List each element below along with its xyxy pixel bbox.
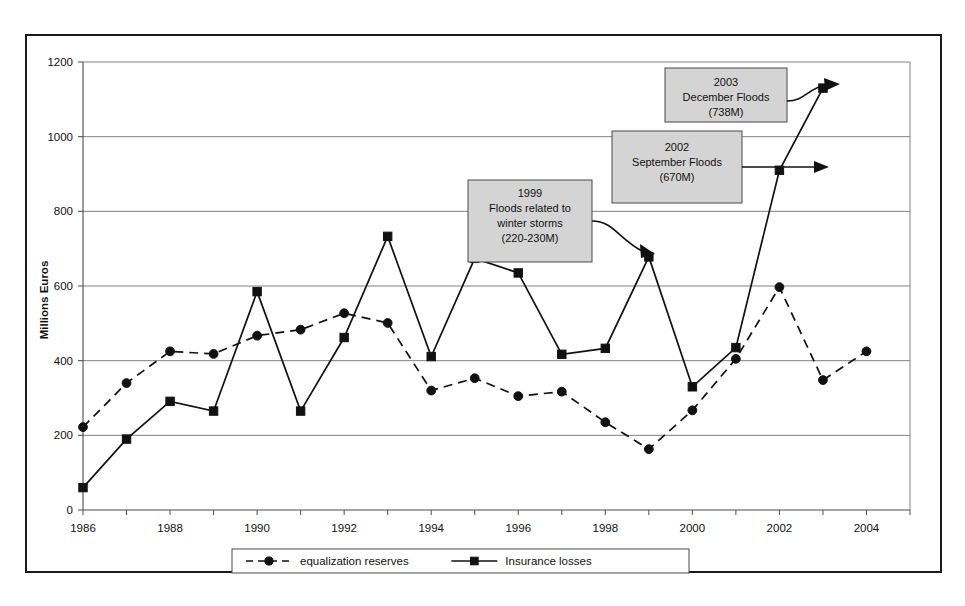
callout-line: September Floods: [632, 156, 722, 168]
x-tick-label: 2004: [854, 522, 880, 534]
data-point-marker: [601, 344, 609, 352]
data-point-marker: [558, 350, 566, 358]
callout-line: (670M): [660, 171, 695, 183]
data-point-marker: [775, 283, 784, 292]
data-point-marker: [644, 445, 653, 454]
x-tick-label: 2000: [680, 522, 706, 534]
annotation-2002-september-floods: 2002September Floods(670M): [612, 131, 829, 203]
y-axis-title: Millions Euros: [38, 261, 50, 340]
data-point-marker: [688, 383, 696, 391]
callout-line: 1999: [518, 187, 542, 199]
x-tick-label: 1994: [418, 522, 444, 534]
chart-legend[interactable]: equalization reservesInsurance losses: [232, 549, 689, 573]
line-chart: 020040060080010001200 198619881990199219…: [0, 0, 965, 606]
data-point-marker: [601, 418, 610, 427]
callout-line: winter storms: [496, 217, 563, 229]
data-point-marker: [296, 407, 304, 415]
y-tick-label: 600: [54, 280, 73, 292]
annotations-layer: 1999Floods related towinter storms(220-2…: [468, 68, 840, 262]
legend-label: Insurance losses: [505, 555, 592, 567]
x-tick-label: 1992: [331, 522, 357, 534]
data-point-marker: [79, 423, 88, 432]
data-point-marker: [732, 343, 740, 351]
x-tick-label: 1988: [157, 522, 183, 534]
data-point-marker: [340, 309, 349, 318]
data-point-marker: [514, 392, 523, 401]
callout-line: Floods related to: [489, 202, 571, 214]
y-tick-label: 1200: [47, 56, 73, 68]
data-point-marker: [122, 379, 131, 388]
callout-line: (220-230M): [502, 232, 559, 244]
x-tick-label: 2002: [767, 522, 793, 534]
callout-arrowhead-icon: [814, 161, 829, 173]
y-tick-label: 0: [67, 504, 73, 516]
callout-line: December Floods: [683, 91, 770, 103]
legend-sample-marker: [471, 557, 479, 565]
callout-arrowhead-icon: [824, 78, 840, 91]
data-point-marker: [122, 435, 130, 443]
data-point-marker: [296, 325, 305, 334]
data-point-marker: [557, 387, 566, 396]
annotation-2003-december-floods: 2003December Floods(738M): [665, 68, 840, 122]
data-point-marker: [209, 407, 217, 415]
y-axis-tick-labels: 020040060080010001200: [47, 56, 73, 516]
data-point-marker: [166, 347, 175, 356]
x-tick-label: 1998: [593, 522, 619, 534]
data-point-marker: [383, 232, 391, 240]
data-point-marker: [427, 352, 435, 360]
callout-line: 2003: [714, 76, 738, 88]
data-point-marker: [688, 406, 697, 415]
data-point-marker: [470, 374, 479, 383]
data-series-layer: [79, 84, 871, 492]
data-point-marker: [427, 386, 436, 395]
y-axis-ticks: [78, 62, 83, 510]
y-tick-label: 400: [54, 355, 73, 367]
x-axis-ticks: [83, 510, 910, 515]
y-tick-label: 200: [54, 429, 73, 441]
data-point-marker: [166, 397, 174, 405]
data-point-marker: [383, 319, 392, 328]
data-point-marker: [209, 350, 218, 359]
legend-sample-marker: [265, 557, 273, 565]
callout-line: (738M): [709, 106, 744, 118]
x-axis-tick-labels: 1986198819901992199419961998200020022004: [70, 522, 880, 534]
callout-line: 2002: [665, 141, 689, 153]
data-point-marker: [253, 331, 262, 340]
data-point-marker: [862, 347, 871, 356]
x-tick-label: 1996: [505, 522, 531, 534]
data-point-marker: [731, 354, 740, 363]
data-point-marker: [79, 483, 87, 491]
data-point-marker: [819, 376, 828, 385]
figure-root: 020040060080010001200 198619881990199219…: [0, 0, 965, 606]
y-tick-label: 800: [54, 205, 73, 217]
callout-connector: [592, 221, 642, 251]
data-point-marker: [340, 333, 348, 341]
legend-label: equalization reserves: [300, 555, 409, 567]
x-tick-label: 1990: [244, 522, 270, 534]
data-point-marker: [253, 287, 261, 295]
y-tick-label: 1000: [47, 131, 73, 143]
data-point-marker: [514, 269, 522, 277]
legend-entry-1[interactable]: equalization reserves: [246, 555, 409, 567]
x-tick-label: 1986: [70, 522, 96, 534]
legend-entry-2[interactable]: Insurance losses: [451, 555, 592, 567]
series-line-1: [83, 287, 866, 449]
